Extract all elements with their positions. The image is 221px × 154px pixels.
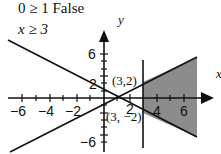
point-label-upper: (3,2): [112, 73, 137, 88]
y-axis-arrow-icon: [99, 30, 109, 42]
x-axis-label: x: [215, 66, 221, 81]
x-tick-label: 6: [180, 103, 188, 119]
y-tick-label: −6: [80, 134, 96, 150]
x-tick-label: 4: [153, 103, 161, 119]
y-tick-label: 2: [89, 76, 97, 92]
y-tick-label: 6: [88, 46, 96, 62]
point-label-lower: (3, −2): [106, 109, 142, 124]
y-axis-label: y: [116, 12, 124, 27]
x-axis-arrow-icon: [201, 92, 214, 104]
x-tick-label: −2: [65, 103, 81, 119]
graph: −6 −4 −2 2 4 6 6 2 −6 y x (3,2) (3, −2): [0, 0, 221, 154]
x-tick-label: −6: [10, 103, 26, 119]
x-tick-label: −4: [38, 103, 54, 119]
